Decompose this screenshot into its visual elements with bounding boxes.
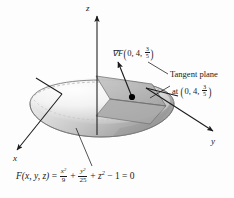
equation-term1-exponent: 2 [64, 167, 66, 172]
tangent-frac-denominator: 5 [202, 91, 207, 97]
tangent-args: 0, 4, [184, 86, 201, 96]
equation-term2: y225 [78, 168, 87, 184]
y-axis-label: y [211, 137, 215, 146]
leader-tangent-upper [148, 62, 168, 74]
surface-equation: F(x, y, z) = x29 + y225 + z2 − 1 = 0 [16, 168, 135, 184]
gradient-args: 0, 4, [127, 48, 144, 58]
equation-term1: x29 [60, 168, 67, 184]
tangent-close-paren: ) [208, 88, 211, 98]
equation-term1-denominator: 9 [60, 177, 67, 184]
gradient-frac-denominator: 5 [145, 53, 150, 59]
equation-term2-exponent: 2 [83, 167, 85, 172]
equation-lhs: F(x, y, z) [16, 171, 49, 181]
equation-equals-1: = [49, 171, 59, 181]
figure-canvas: z x y ∇F(0, 4, 35) Tangent plane at (0, … [0, 0, 234, 198]
z-axis-label: z [86, 4, 90, 13]
equation-equals-zero: = 0 [122, 171, 134, 181]
tangency-point-marker [129, 94, 135, 100]
tangent-at-prefix: at [172, 86, 180, 96]
tangent-plane-label-line1: Tangent plane [170, 70, 218, 79]
gradient-label: ∇F(0, 4, 35) [112, 46, 155, 60]
equation-term2-denominator: 25 [78, 177, 87, 184]
tangent-open-paren: ( [181, 88, 184, 98]
gradient-open-paren: ( [124, 50, 127, 60]
tangent-fraction: 35 [202, 84, 207, 98]
x-axis-label: x [13, 154, 17, 163]
equation-plus-1: + [68, 171, 78, 181]
equation-minus-one: − 1 [105, 171, 122, 181]
tangent-plane-label-line2: at (0, 4, 35) [172, 84, 212, 98]
equation-plus-2: + [88, 171, 98, 181]
gradient-close-paren: ) [151, 50, 154, 60]
gradient-symbol: ∇F [112, 48, 123, 58]
gradient-fraction: 35 [145, 46, 150, 60]
